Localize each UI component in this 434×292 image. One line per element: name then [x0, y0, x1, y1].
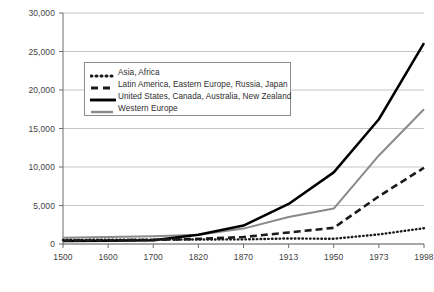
- series-line: [63, 168, 424, 241]
- x-axis-tick-label: 1700: [133, 252, 173, 262]
- chart-svg: [0, 0, 434, 268]
- legend-item: Western Europe: [90, 102, 290, 114]
- figure: US$ 05,00010,00015,00020,00025,00030,000…: [0, 0, 434, 292]
- y-axis-tick-label: 5,000: [9, 201, 55, 211]
- legend-item-label: Latin America, Eastern Europe, Russia, J…: [118, 80, 288, 89]
- x-axis-tick-label: 1973: [359, 252, 399, 262]
- x-axis-tick-label: 1913: [269, 252, 309, 262]
- y-axis-tick-label: 25,000: [9, 47, 55, 57]
- legend-item-label: Western Europe: [118, 104, 178, 113]
- legend-item-label: United States, Canada, Australia, New Ze…: [118, 92, 291, 101]
- x-axis-tick-label: 1600: [88, 252, 128, 262]
- chart-legend: Asia, AfricaLatin America, Eastern Europ…: [84, 62, 291, 116]
- legend-item: Latin America, Eastern Europe, Russia, J…: [90, 78, 290, 90]
- y-axis-tick-label: 20,000: [9, 85, 55, 95]
- legend-item: United States, Canada, Australia, New Ze…: [90, 90, 290, 102]
- x-axis-tick-label: 1500: [43, 252, 83, 262]
- y-axis-tick-label: 30,000: [9, 8, 55, 18]
- x-axis-tick-label: 1870: [224, 252, 264, 262]
- legend-item: Asia, Africa: [90, 66, 290, 78]
- chart-plot-area: US$ 05,00010,00015,00020,00025,00030,000…: [0, 0, 434, 268]
- y-axis-tick-label: 0: [9, 239, 55, 249]
- legend-item-label: Asia, Africa: [118, 68, 160, 77]
- y-axis-tick-label: 15,000: [9, 124, 55, 134]
- x-axis-tick-label: 1998: [404, 252, 434, 262]
- y-axis-tick-label: 10,000: [9, 162, 55, 172]
- dashed-line-swatch: [90, 79, 116, 89]
- solid-thick-line-swatch: [90, 91, 116, 101]
- dotted-line-swatch: [90, 67, 116, 77]
- x-axis-tick-label: 1820: [178, 252, 218, 262]
- solid-thin-gray-line-swatch: [90, 103, 116, 113]
- x-axis-tick-label: 1950: [314, 252, 354, 262]
